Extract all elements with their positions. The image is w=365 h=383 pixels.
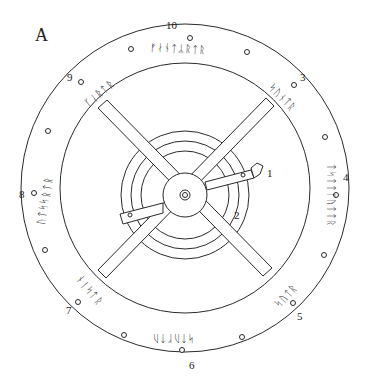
position-number-2: 2 — [234, 210, 240, 221]
position-number-3: 3 — [300, 72, 306, 83]
position-number-5: 5 — [297, 311, 303, 322]
position-number-6: 6 — [189, 360, 195, 371]
center-pin-inner — [183, 193, 188, 198]
runic-dial-diagram — [0, 0, 365, 383]
rune-inscription-right: ᛏᛋᛏᛏᚴᚢᛏᛏᚱ — [326, 164, 337, 227]
position-number-9: 9 — [67, 72, 73, 83]
position-number-4: 4 — [343, 172, 349, 183]
panel-label: A — [35, 26, 48, 44]
rune-inscription-bottom: ᛋᛏᚢᚴᛏᚢ — [152, 333, 194, 344]
position-number-7: 7 — [66, 305, 72, 316]
position-number-10: 10 — [166, 20, 177, 31]
position-number-1: 1 — [267, 168, 273, 179]
position-number-8: 8 — [19, 189, 25, 200]
